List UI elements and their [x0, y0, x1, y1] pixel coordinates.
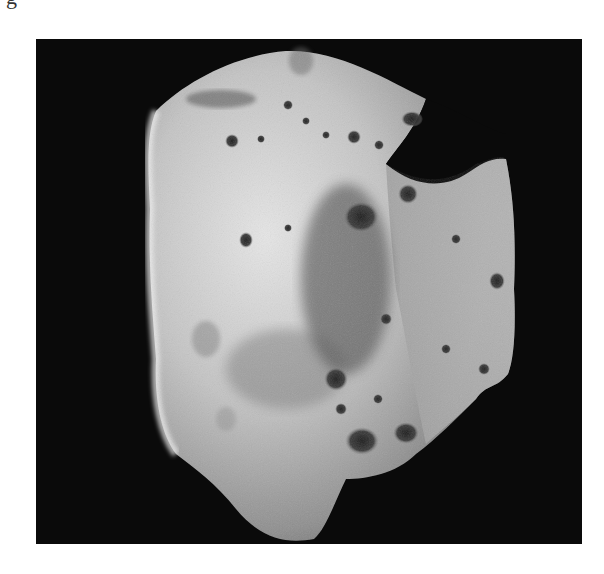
- asteroid-photo: [36, 39, 582, 544]
- partial-caption-text: g: [6, 0, 17, 8]
- asteroid-image: [36, 39, 582, 544]
